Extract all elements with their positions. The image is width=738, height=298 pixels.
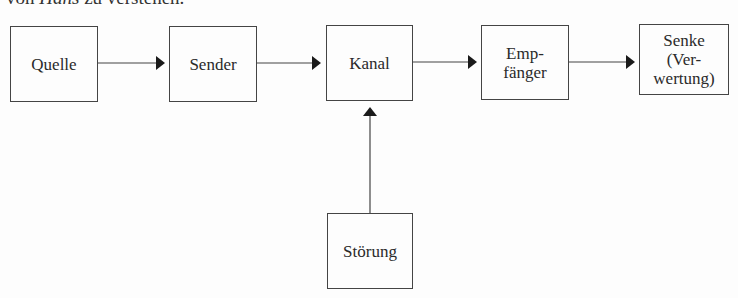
node-label-line: Senke [663,31,705,50]
arrowhead-right-icon [312,56,321,70]
node-senke: Senke (Ver- wertung) [639,24,729,95]
node-kanal: Kanal [326,25,413,101]
node-stoerung: Störung [327,213,413,289]
arrowhead-right-icon [468,55,477,69]
node-label: Sender [189,55,236,74]
node-sender: Sender [169,26,257,102]
node-quelle: Quelle [10,26,98,102]
node-label-line: fänger [503,63,546,82]
node-label: Störung [343,242,397,261]
node-empfaenger: Emp- fänger [481,25,569,100]
node-label: Kanal [349,54,390,73]
node-label-line: Emp- [506,44,544,63]
arrowhead-right-icon [156,56,165,70]
arrowhead-up-icon [363,107,377,116]
node-label: Quelle [31,55,76,74]
node-label-line: (Ver- [667,50,702,69]
arrowhead-right-icon [626,55,635,69]
node-label-line: wertung) [653,69,714,88]
